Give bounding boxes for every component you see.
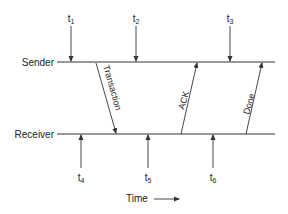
sender-label: Sender: [22, 57, 55, 68]
message-ack: ACK: [176, 63, 197, 134]
time-marker-t4: t4: [78, 135, 85, 184]
time-subscript: 3: [229, 18, 233, 25]
svg-text:t1: t1: [68, 13, 75, 25]
svg-text:t2: t2: [133, 13, 140, 25]
svg-text:t6: t6: [210, 172, 217, 184]
time-subscript: 2: [135, 18, 139, 25]
message-label: ACK: [176, 90, 191, 111]
time-axis-label: Time: [126, 193, 148, 204]
time-marker-t1: t1: [68, 13, 75, 61]
time-subscript: 4: [80, 177, 84, 184]
time-subscript: 5: [147, 177, 151, 184]
svg-text:t3: t3: [227, 13, 234, 25]
time-marker-t6: t6: [210, 135, 217, 184]
message-label: Done: [241, 92, 257, 115]
message-done: Done: [241, 63, 262, 134]
message-label: Transaction: [101, 64, 123, 112]
receiver-label: Receiver: [15, 129, 55, 140]
message-transaction: Transaction: [96, 63, 124, 133]
time-subscript: 1: [70, 18, 74, 25]
time-marker-t3: t3: [227, 13, 234, 61]
sequence-diagram: Sender Receiver t1 t2 t3 Transaction ACK…: [0, 0, 288, 214]
svg-text:t4: t4: [78, 172, 85, 184]
time-subscript: 6: [212, 177, 216, 184]
time-marker-t5: t5: [145, 135, 152, 184]
time-marker-t2: t2: [133, 13, 140, 61]
svg-text:t5: t5: [145, 172, 152, 184]
